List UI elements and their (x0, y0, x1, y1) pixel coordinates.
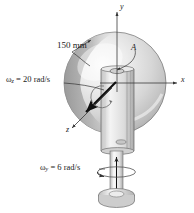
omega-z-value: 20 (23, 74, 32, 84)
hub-boss-bottom (116, 140, 126, 144)
point-label-a: A (131, 43, 136, 52)
base-collar (109, 191, 124, 197)
omega-y-label: ωy = 6 rad/s (40, 163, 80, 172)
omega-z-label: ωz = 20 rad/s (6, 75, 50, 84)
shaft-rotation-arrowhead (97, 172, 104, 177)
omega-y-units: rad/s (64, 162, 81, 172)
bracket-body (101, 69, 134, 151)
y-axis-label: y (120, 3, 124, 11)
yoke-bracket (101, 66, 134, 155)
mechanics-figure (0, 0, 194, 213)
omega-y-subscript: y (46, 166, 49, 172)
x-axis-label: x (181, 76, 185, 84)
omega-z-units: rad/s (34, 74, 51, 84)
omega-z-equals: = (16, 74, 21, 84)
base (99, 189, 135, 208)
omega-y-equals: = (50, 162, 55, 172)
omega-y-value: 6 (57, 162, 61, 172)
z-axis-label: z (66, 126, 69, 134)
dimension-label: 150 mm (57, 41, 87, 50)
omega-z-subscript: z (12, 78, 14, 84)
